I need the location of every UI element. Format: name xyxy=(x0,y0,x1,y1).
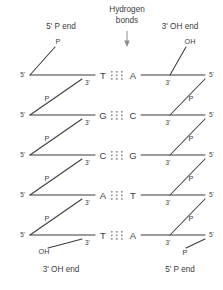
base-right-3: G xyxy=(129,150,136,161)
base-left-2: G xyxy=(99,110,106,121)
right-three-prime-label-5: 3' xyxy=(166,239,171,246)
right-three-prime-label-1: 3' xyxy=(166,79,171,86)
base-right-2: C xyxy=(130,110,137,121)
base-right-1: A xyxy=(130,70,137,81)
right-linker-phosphate-label-3: P xyxy=(189,174,194,183)
right-strand-terminal-phosphate-label: P xyxy=(183,248,188,257)
left-five-prime-label-4: 5' xyxy=(20,191,25,198)
right-five-prime-label-4: 5' xyxy=(209,191,214,198)
base-left-5: T xyxy=(100,230,106,241)
right-linker-phosphate-label-1: P xyxy=(189,94,194,103)
base-pair-row-2: G C xyxy=(99,110,136,121)
base-right-5: A xyxy=(130,230,137,241)
left-linker-phosphate-label-1: P xyxy=(45,94,50,103)
left-three-prime-label-4: 3' xyxy=(85,199,90,206)
right-five-prime-label-3: 5' xyxy=(209,151,214,158)
left-three-prime-label-1: 3' xyxy=(85,79,90,86)
left-five-prime-label-3: 5' xyxy=(20,151,25,158)
right-phosphodiester-linker-2 xyxy=(170,119,205,155)
right-linker-phosphate-label-2: P xyxy=(189,134,194,143)
left-linker-phosphate-label-2: P xyxy=(45,134,50,143)
hydrogen-bond-dots-1 xyxy=(111,71,123,80)
left-strand-terminal-phosphate-bond xyxy=(30,47,55,75)
right-five-prime-label-5: 5' xyxy=(209,231,214,238)
base-right-4: T xyxy=(130,190,136,201)
left-strand-terminal-phosphate-label: P xyxy=(56,37,61,46)
left-three-prime-label-3: 3' xyxy=(85,159,90,166)
dna-diagram-canvas: 5' P end 3' OH end Hydrogen bonds 3' OH … xyxy=(0,0,223,290)
left-strand-terminal-hydroxyl-bond xyxy=(48,239,82,248)
right-strand-terminal-hydroxyl-label: OH xyxy=(185,37,196,46)
left-strand: P P P P P OH 5' 5' 5' 5' 5' xyxy=(20,37,95,256)
right-linker-phosphate-label-4: P xyxy=(189,214,194,223)
left-three-prime-label-2: 3' xyxy=(85,119,90,126)
left-linker-phosphate-label-3: P xyxy=(45,174,50,183)
base-pair-row-4: A T xyxy=(100,190,136,201)
left-phosphodiester-linker-1 xyxy=(30,79,82,115)
base-pair-row-5: T A xyxy=(100,230,137,241)
bottom-right-end-label: 5' P end xyxy=(165,265,195,274)
right-three-prime-label-3: 3' xyxy=(166,159,171,166)
bottom-left-end-label: 3' OH end xyxy=(43,265,80,274)
base-pair-row-3: C G xyxy=(100,150,137,161)
hydrogen-bonds-label-line2: bonds xyxy=(116,16,138,25)
right-five-prime-label-1: 5' xyxy=(209,71,214,78)
hydrogen-bond-dots-2 xyxy=(111,111,123,120)
left-phosphodiester-linker-2 xyxy=(30,119,82,155)
right-phosphodiester-linker-3 xyxy=(170,159,205,195)
right-three-prime-label-2: 3' xyxy=(166,119,171,126)
left-five-prime-label-1: 5' xyxy=(20,71,25,78)
right-strand: OH P P P P P 3' 3' 3' 3' 3' xyxy=(141,37,214,257)
left-linker-phosphate-label-4: P xyxy=(45,214,50,223)
right-strand-terminal-hydroxyl-bond xyxy=(170,47,186,75)
base-pair-row-1: T A xyxy=(100,70,137,81)
left-three-prime-label-5: 3' xyxy=(85,239,90,246)
hydrogen-bond-dots-4 xyxy=(111,191,123,200)
hydrogen-bonds-pointer-arrow-icon xyxy=(124,31,130,47)
right-phosphodiester-linker-1 xyxy=(170,79,205,115)
right-three-prime-label-4: 3' xyxy=(166,199,171,206)
left-phosphodiester-linker-4 xyxy=(30,199,82,235)
left-strand-terminal-hydroxyl-label: OH xyxy=(39,247,50,256)
dna-antiparallel-strands-diagram: 5' P end 3' OH end Hydrogen bonds 3' OH … xyxy=(0,0,223,290)
left-five-prime-label-5: 5' xyxy=(20,231,25,238)
base-left-3: C xyxy=(100,150,107,161)
hydrogen-bond-dots-3 xyxy=(111,151,123,160)
right-five-prime-label-2: 5' xyxy=(209,111,214,118)
left-phosphodiester-linker-3 xyxy=(30,159,82,195)
top-right-end-label: 3' OH end xyxy=(162,22,199,31)
top-left-end-label: 5' P end xyxy=(46,22,76,31)
hydrogen-bond-dots-5 xyxy=(111,231,123,240)
right-phosphodiester-linker-4 xyxy=(170,199,205,235)
base-pair-rungs: T A G C xyxy=(99,70,137,241)
base-left-1: T xyxy=(100,70,106,81)
hydrogen-bonds-label-line1: Hydrogen xyxy=(109,5,145,14)
right-strand-terminal-phosphate-bond xyxy=(186,239,205,248)
left-five-prime-label-2: 5' xyxy=(20,111,25,118)
base-left-4: A xyxy=(100,190,107,201)
